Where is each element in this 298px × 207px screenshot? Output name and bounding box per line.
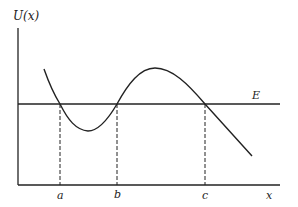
- x-axis-label: x: [266, 190, 272, 201]
- turning-point-b-label: b: [114, 189, 121, 200]
- y-axis-label: U(x): [13, 10, 39, 22]
- potential-energy-diagram: U(x) E a b c x: [0, 0, 298, 207]
- turning-point-c-label: c: [202, 190, 208, 201]
- turning-point-a-label: a: [57, 190, 64, 201]
- diagram-canvas: [0, 0, 298, 207]
- potential-curve: [44, 68, 252, 156]
- energy-label: E: [252, 90, 260, 101]
